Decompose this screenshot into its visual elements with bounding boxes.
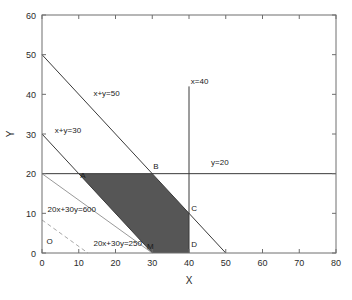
x-tick-label: 30: [147, 258, 157, 268]
y-tick-label: 50: [26, 50, 36, 60]
y-tick-label: 30: [26, 130, 36, 140]
x-tick-label: 80: [331, 258, 341, 268]
line-label-250: 20x+30y=250: [93, 239, 142, 248]
x-axis-title: X: [186, 275, 193, 286]
y-tick-label: 20: [26, 169, 36, 179]
vertex-B: B: [153, 162, 158, 171]
x-tick-label: 10: [74, 258, 84, 268]
vertex-D: D: [191, 240, 197, 249]
x-tick-label: 0: [39, 258, 44, 268]
x-tick-label: 40: [184, 258, 194, 268]
chart-figure: 010203040506070800102030405060 x+y=50x+y…: [0, 0, 352, 300]
vertex-A: A: [80, 171, 86, 180]
vertex-M: M: [147, 242, 154, 251]
y-axis-title: Y: [5, 130, 16, 137]
line-label-xy50: x+y=50: [93, 89, 120, 98]
line-label-x40: x=40: [191, 77, 209, 86]
y-tick-label: 10: [26, 209, 36, 219]
x-tick-label: 70: [294, 258, 304, 268]
y-tick-label: 40: [26, 90, 36, 100]
line-label-600: 20x+30y=600: [48, 205, 97, 214]
vertex-C: C: [191, 204, 197, 213]
x-tick-label: 60: [257, 258, 267, 268]
y-tick-label: 60: [26, 11, 36, 21]
x-tick-label: 20: [110, 258, 120, 268]
line-label-xy30: x+y=30: [55, 126, 82, 135]
series-layer: [42, 55, 336, 253]
line-label-y20: y=20: [211, 158, 229, 167]
vertex-O: O: [46, 237, 52, 246]
y-tick-label: 0: [31, 249, 36, 259]
plot-canvas: 010203040506070800102030405060 x+y=50x+y…: [0, 0, 352, 300]
x-tick-label: 50: [221, 258, 231, 268]
